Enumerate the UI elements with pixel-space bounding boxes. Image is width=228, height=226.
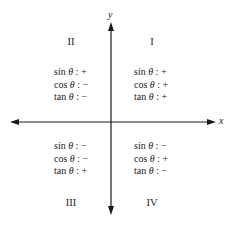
quadrant-i-numeral: I xyxy=(137,36,167,48)
quadrant-iii-numeral: III xyxy=(56,197,86,209)
x-axis-left-arrow-icon xyxy=(10,119,19,125)
y-axis-up-arrow-icon xyxy=(108,22,114,31)
quadrant-iv-sin-row: sin θ : − xyxy=(134,140,168,153)
quadrant-i-signs: sin θ : + cos θ : + tan θ : + xyxy=(134,66,168,104)
quadrant-iii-sin-row: sin θ : − xyxy=(54,140,88,153)
quadrant-ii-tan-row: tan θ : − xyxy=(54,91,88,104)
quadrant-ii-numeral: II xyxy=(56,36,86,48)
coordinate-axes xyxy=(0,0,228,226)
quadrant-i-cos-row: cos θ : + xyxy=(134,79,168,92)
quadrant-ii-sin-row: sin θ : + xyxy=(54,66,88,79)
quadrant-iv-tan-row: tan θ : − xyxy=(134,165,168,178)
y-axis-down-arrow-icon xyxy=(108,206,114,215)
quadrant-iv-numeral: IV xyxy=(137,197,167,209)
quadrant-iv-cos-row: cos θ : + xyxy=(134,153,168,166)
x-axis-right-arrow-icon xyxy=(207,119,216,125)
quadrant-i-sin-row: sin θ : + xyxy=(134,66,168,79)
quadrant-ii-cos-row: cos θ : − xyxy=(54,79,88,92)
quadrant-iv-signs: sin θ : − cos θ : + tan θ : − xyxy=(134,140,168,178)
quadrant-i-tan-row: tan θ : + xyxy=(134,91,168,104)
y-axis-label: y xyxy=(108,10,112,20)
quadrant-iii-tan-row: tan θ : + xyxy=(54,165,88,178)
quadrant-iii-signs: sin θ : − cos θ : − tan θ : + xyxy=(54,140,88,178)
quadrant-iii-cos-row: cos θ : − xyxy=(54,153,88,166)
quadrant-ii-signs: sin θ : + cos θ : − tan θ : − xyxy=(54,66,88,104)
x-axis-label: x xyxy=(219,116,223,126)
